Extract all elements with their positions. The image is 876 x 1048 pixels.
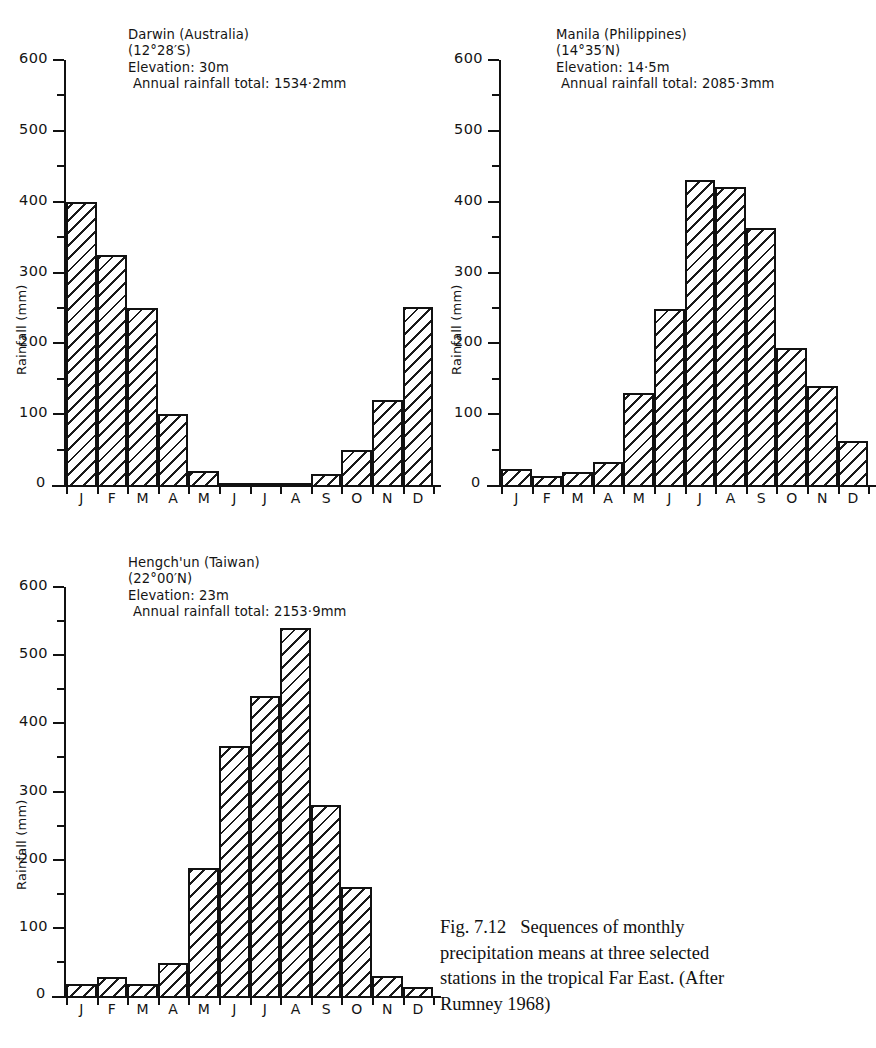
bar-manila-M xyxy=(562,472,593,485)
x-axis-month-manila-8: S xyxy=(746,490,777,506)
y-tick-label-darwin-300: 300 xyxy=(0,263,48,279)
y-tick-minor-hengchun-250 xyxy=(57,825,64,827)
y-tick-label-hengchun-100: 100 xyxy=(0,918,48,934)
x-axis-month-manila-10: N xyxy=(807,490,838,506)
y-tick-minor-darwin-250 xyxy=(57,307,64,309)
x-axis-month-darwin-9: O xyxy=(341,490,372,506)
y-tick-label-darwin-100: 100 xyxy=(0,404,48,420)
plot-area-manila: Rainfall (mm)6005004003002001000JFMAMJJA… xyxy=(438,0,875,530)
y-tick-major-hengchun-300 xyxy=(53,791,64,793)
x-axis-month-darwin-11: D xyxy=(403,490,434,506)
bar-manila-J xyxy=(501,469,532,485)
y-tick-label-hengchun-600: 600 xyxy=(0,577,48,593)
bar-darwin-J xyxy=(66,202,97,485)
y-tick-label-hengchun-0: 0 xyxy=(36,985,45,1001)
bar-manila-O xyxy=(776,348,807,485)
x-axis-month-hengchun-2: M xyxy=(127,1001,158,1017)
bar-darwin-J xyxy=(250,483,281,486)
bar-manila-F xyxy=(532,476,563,485)
figure-caption: Fig. 7.12 Sequences of monthly precipita… xyxy=(440,915,840,1017)
chart-panel-darwin: Darwin (Australia) (12°28′S) Elevation: … xyxy=(0,0,440,530)
bar-darwin-F xyxy=(97,255,128,485)
bar-manila-M xyxy=(623,393,654,485)
y-tick-minor-darwin-450 xyxy=(57,165,64,167)
bar-darwin-M xyxy=(188,471,219,485)
x-axis-month-hengchun-6: J xyxy=(250,1001,281,1017)
y-tick-label-darwin-400: 400 xyxy=(0,192,48,208)
x-axis-month-hengchun-0: J xyxy=(66,1001,97,1017)
y-axis-label-darwin: Rainfall (mm) xyxy=(14,284,29,375)
x-axis-month-darwin-4: M xyxy=(188,490,219,506)
plot-area-hengchun: Rainfall (mm)6005004003002001000JFMAMJJA… xyxy=(0,530,440,1048)
x-axis-month-manila-5: J xyxy=(654,490,685,506)
y-tick-label-hengchun-300: 300 xyxy=(0,782,48,798)
y-tick-minor-darwin-550 xyxy=(57,94,64,96)
bar-manila-J xyxy=(654,309,685,485)
bar-manila-S xyxy=(746,228,777,485)
x-axis-month-hengchun-10: N xyxy=(372,1001,403,1017)
y-tick-major-manila-200 xyxy=(488,342,499,344)
bar-manila-A xyxy=(715,187,746,485)
x-axis-month-hengchun-9: O xyxy=(341,1001,372,1017)
bar-hengchun-S xyxy=(311,805,342,996)
bar-darwin-N xyxy=(372,400,403,485)
bar-hengchun-O xyxy=(341,887,372,996)
bar-darwin-A xyxy=(158,414,189,485)
bar-darwin-A xyxy=(280,483,311,486)
caption-line-4: Rumney 1968) xyxy=(440,992,840,1018)
bar-hengchun-M xyxy=(188,868,219,996)
y-tick-minor-hengchun-550 xyxy=(57,620,64,622)
x-axis-month-manila-6: J xyxy=(685,490,716,506)
bar-darwin-S xyxy=(311,474,342,485)
y-tick-major-manila-300 xyxy=(488,272,499,274)
y-tick-label-hengchun-500: 500 xyxy=(0,645,48,661)
caption-line-2: precipitation means at three selected xyxy=(440,941,840,967)
y-tick-label-manila-200: 200 xyxy=(435,333,483,349)
x-axis-month-darwin-5: J xyxy=(219,490,250,506)
x-axis-line-hengchun xyxy=(52,996,441,998)
bar-hengchun-M xyxy=(127,984,158,996)
y-tick-major-darwin-100 xyxy=(53,413,64,415)
x-axis-month-hengchun-3: A xyxy=(158,1001,189,1017)
x-axis-month-manila-11: D xyxy=(838,490,869,506)
y-tick-major-hengchun-200 xyxy=(53,859,64,861)
x-axis-month-darwin-7: A xyxy=(280,490,311,506)
y-tick-label-hengchun-200: 200 xyxy=(0,850,48,866)
y-tick-label-hengchun-400: 400 xyxy=(0,713,48,729)
y-tick-label-darwin-500: 500 xyxy=(0,121,48,137)
bar-hengchun-A xyxy=(158,963,189,996)
y-tick-major-darwin-600 xyxy=(53,59,64,61)
y-tick-major-hengchun-500 xyxy=(53,654,64,656)
y-tick-minor-hengchun-450 xyxy=(57,688,64,690)
x-axis-month-manila-0: J xyxy=(501,490,532,506)
y-tick-minor-hengchun-350 xyxy=(57,756,64,758)
x-axis-month-darwin-8: S xyxy=(311,490,342,506)
x-axis-line-darwin xyxy=(52,485,441,487)
y-tick-label-manila-500: 500 xyxy=(435,121,483,137)
bar-darwin-D xyxy=(403,307,434,486)
y-tick-major-darwin-200 xyxy=(53,342,64,344)
y-tick-minor-darwin-350 xyxy=(57,236,64,238)
bar-darwin-M xyxy=(127,308,158,485)
bar-manila-J xyxy=(685,180,716,485)
bar-hengchun-J xyxy=(66,984,97,996)
y-tick-major-manila-600 xyxy=(488,59,499,61)
y-tick-minor-manila-250 xyxy=(492,307,499,309)
y-tick-major-hengchun-400 xyxy=(53,722,64,724)
x-axis-month-hengchun-11: D xyxy=(403,1001,434,1017)
x-axis-month-manila-3: A xyxy=(593,490,624,506)
x-axis-month-darwin-2: M xyxy=(127,490,158,506)
y-tick-minor-manila-550 xyxy=(492,94,499,96)
y-tick-major-darwin-400 xyxy=(53,201,64,203)
y-tick-label-manila-0: 0 xyxy=(471,474,480,490)
bar-hengchun-J xyxy=(219,746,250,996)
y-tick-label-darwin-0: 0 xyxy=(36,474,45,490)
y-tick-minor-manila-150 xyxy=(492,378,499,380)
x-axis-month-darwin-3: A xyxy=(158,490,189,506)
y-tick-label-darwin-200: 200 xyxy=(0,333,48,349)
y-tick-label-manila-100: 100 xyxy=(435,404,483,420)
bar-hengchun-A xyxy=(280,628,311,996)
bar-hengchun-J xyxy=(250,696,281,996)
y-tick-major-hengchun-600 xyxy=(53,586,64,588)
